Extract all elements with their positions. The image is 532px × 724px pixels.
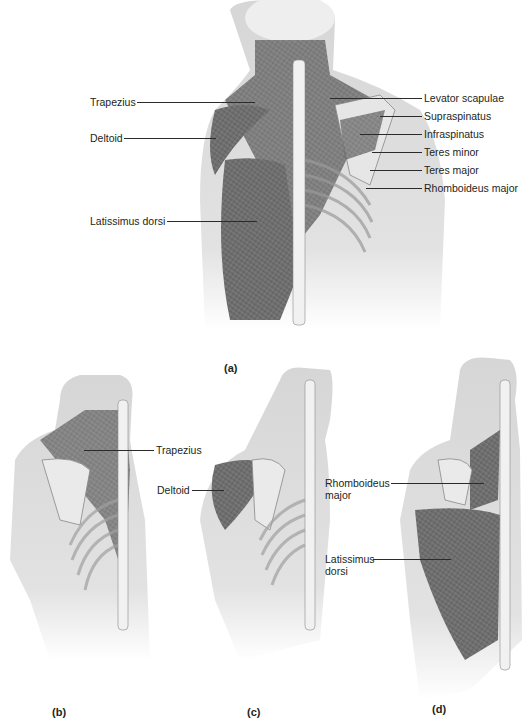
label-infraspinatus: Infraspinatus bbox=[424, 128, 484, 140]
label-teres-major: Teres major bbox=[424, 164, 479, 176]
caption-c: (c) bbox=[247, 706, 260, 718]
label-rhomboideus-major-a: Rhomboideus major bbox=[424, 182, 518, 194]
panel-d-figure bbox=[400, 358, 522, 701]
leader-trapezius-b bbox=[84, 450, 154, 451]
label-teres-minor: Teres minor bbox=[424, 146, 479, 158]
leader-infraspinatus bbox=[360, 134, 422, 135]
caption-a: (a) bbox=[224, 362, 237, 374]
panel-a-figure bbox=[200, 0, 445, 330]
label-supraspinatus: Supraspinatus bbox=[424, 110, 491, 122]
leader-latissimus-dorsi-d bbox=[373, 559, 451, 560]
leader-teres-major bbox=[370, 170, 422, 171]
leader-latissimus-dorsi-a bbox=[167, 221, 257, 222]
leader-deltoid-c bbox=[192, 490, 224, 491]
label-latissimus-dorsi-d-text: Latissimus dorsi bbox=[325, 553, 375, 577]
label-latissimus-dorsi-a: Latissimus dorsi bbox=[90, 215, 165, 227]
leader-trapezius-a bbox=[137, 102, 255, 103]
leader-rhomboideus-major-d bbox=[391, 483, 484, 484]
label-levator-scapulae: Levator scapulae bbox=[424, 92, 504, 104]
panel-b-figure bbox=[10, 375, 150, 660]
label-deltoid-c: Deltoid bbox=[157, 484, 190, 496]
label-trapezius-b: Trapezius bbox=[156, 444, 202, 456]
leader-supraspinatus bbox=[380, 116, 422, 117]
label-rhomboideus-major-d: Rhomboideus major bbox=[325, 477, 395, 501]
label-latissimus-dorsi-d: Latissimus dorsi bbox=[325, 553, 385, 577]
leader-teres-minor bbox=[372, 152, 422, 153]
label-rhomboideus-major-d-text: Rhomboideus major bbox=[325, 477, 390, 501]
back-muscles-illustration bbox=[0, 0, 532, 724]
leader-levator-scapulae bbox=[330, 98, 422, 99]
label-trapezius-a: Trapezius bbox=[90, 96, 136, 108]
caption-d: (d) bbox=[432, 703, 446, 715]
leader-deltoid-a bbox=[124, 138, 216, 139]
caption-b: (b) bbox=[52, 706, 66, 718]
panel-c-figure bbox=[200, 368, 333, 661]
leader-rhomboideus-major-a bbox=[366, 188, 422, 189]
label-deltoid-a: Deltoid bbox=[90, 132, 123, 144]
